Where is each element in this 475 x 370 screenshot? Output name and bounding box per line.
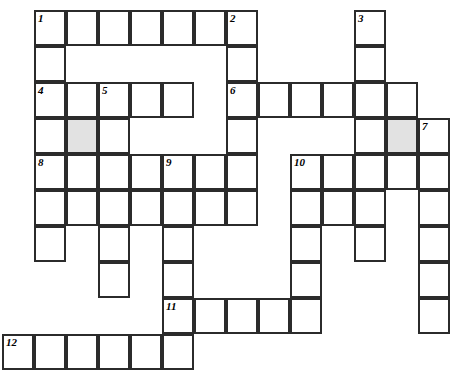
crossword-cell[interactable]: 9 (162, 154, 194, 190)
crossword-cell[interactable] (226, 190, 258, 226)
crossword-cell[interactable] (98, 118, 130, 154)
clue-number-4: 4 (38, 84, 44, 96)
crossword-cell[interactable] (354, 226, 386, 262)
crossword-cell[interactable] (418, 262, 450, 298)
crossword-cell[interactable] (162, 190, 194, 226)
crossword-cell[interactable] (354, 154, 386, 190)
clue-number-5: 5 (102, 84, 108, 96)
crossword-cell[interactable] (354, 118, 386, 154)
crossword-cell[interactable] (290, 226, 322, 262)
crossword-cell[interactable] (66, 190, 98, 226)
crossword-cell-shaded (66, 118, 98, 154)
crossword-cell[interactable] (258, 298, 290, 334)
crossword-cell[interactable] (66, 82, 98, 118)
crossword-cell[interactable]: 2 (226, 10, 258, 46)
clue-number-2: 2 (230, 12, 236, 24)
crossword-cell[interactable]: 3 (354, 10, 386, 46)
crossword-cell[interactable] (98, 154, 130, 190)
crossword-cell[interactable]: 11 (162, 298, 194, 334)
crossword-cell[interactable] (290, 190, 322, 226)
clue-number-6: 6 (230, 84, 236, 96)
crossword-cell[interactable] (130, 82, 162, 118)
clue-number-1: 1 (38, 12, 44, 24)
crossword-cell[interactable]: 12 (2, 334, 34, 370)
crossword-cell[interactable] (34, 226, 66, 262)
crossword-cell[interactable] (322, 154, 354, 190)
crossword-cell[interactable]: 5 (98, 82, 130, 118)
crossword-cell[interactable] (226, 118, 258, 154)
crossword-cell[interactable] (130, 190, 162, 226)
clue-number-9: 9 (166, 156, 172, 168)
crossword-cell[interactable] (98, 226, 130, 262)
crossword-cell[interactable] (162, 10, 194, 46)
crossword-cell[interactable] (34, 118, 66, 154)
crossword-cell[interactable] (226, 46, 258, 82)
crossword-cell[interactable] (98, 262, 130, 298)
crossword-cell[interactable] (418, 154, 450, 190)
crossword-cell[interactable] (130, 154, 162, 190)
crossword-cell[interactable] (258, 82, 290, 118)
clue-number-3: 3 (358, 12, 364, 24)
crossword-cell[interactable] (322, 190, 354, 226)
crossword-cell[interactable] (34, 190, 66, 226)
crossword-cell[interactable] (290, 262, 322, 298)
crossword-cell[interactable] (162, 334, 194, 370)
crossword-cell[interactable]: 4 (34, 82, 66, 118)
crossword-cell[interactable] (34, 334, 66, 370)
crossword-cell[interactable] (98, 334, 130, 370)
crossword-cell[interactable] (386, 82, 418, 118)
clue-number-11: 11 (166, 300, 176, 312)
clue-number-10: 10 (294, 156, 305, 168)
crossword-cell[interactable] (194, 10, 226, 46)
crossword-cell[interactable] (194, 298, 226, 334)
crossword-cell-shaded (386, 118, 418, 154)
crossword-cell[interactable] (226, 298, 258, 334)
crossword-cell[interactable] (386, 154, 418, 190)
crossword-cell[interactable] (354, 190, 386, 226)
clue-number-7: 7 (422, 120, 428, 132)
crossword-cell[interactable] (354, 82, 386, 118)
crossword-cell[interactable] (66, 334, 98, 370)
clue-number-12: 12 (6, 336, 17, 348)
crossword-cell[interactable] (354, 46, 386, 82)
crossword-cell[interactable] (322, 82, 354, 118)
crossword-cell[interactable]: 10 (290, 154, 322, 190)
clue-number-8: 8 (38, 156, 44, 168)
crossword-cell[interactable] (98, 10, 130, 46)
crossword-cell[interactable] (162, 226, 194, 262)
crossword-cell[interactable] (130, 334, 162, 370)
crossword-cell[interactable] (290, 82, 322, 118)
crossword-cell[interactable] (34, 46, 66, 82)
crossword-cell[interactable] (226, 154, 258, 190)
crossword-cell[interactable]: 6 (226, 82, 258, 118)
crossword-cell[interactable] (66, 10, 98, 46)
crossword-cell[interactable] (66, 154, 98, 190)
crossword-cell[interactable] (418, 190, 450, 226)
crossword-cell[interactable] (162, 262, 194, 298)
crossword-cell[interactable]: 7 (418, 118, 450, 154)
crossword-cell[interactable] (130, 10, 162, 46)
crossword-cell[interactable] (162, 82, 194, 118)
crossword-cell[interactable] (418, 226, 450, 262)
crossword-cell[interactable] (194, 190, 226, 226)
crossword-cell[interactable] (98, 190, 130, 226)
crossword-cell[interactable] (194, 154, 226, 190)
crossword-cell[interactable] (290, 298, 322, 334)
crossword-cell[interactable]: 1 (34, 10, 66, 46)
crossword-cell[interactable]: 8 (34, 154, 66, 190)
crossword-cell[interactable] (418, 298, 450, 334)
